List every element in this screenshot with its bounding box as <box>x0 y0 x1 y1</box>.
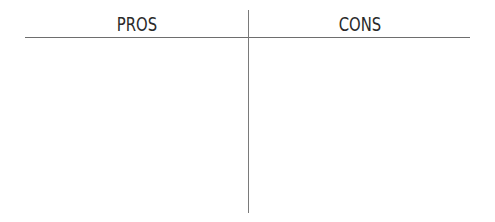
cons-heading: CONS <box>313 12 407 36</box>
pros-column <box>25 40 247 212</box>
cons-column <box>250 40 470 212</box>
column-divider-line <box>248 10 249 213</box>
pros-heading: PROS <box>90 12 184 36</box>
